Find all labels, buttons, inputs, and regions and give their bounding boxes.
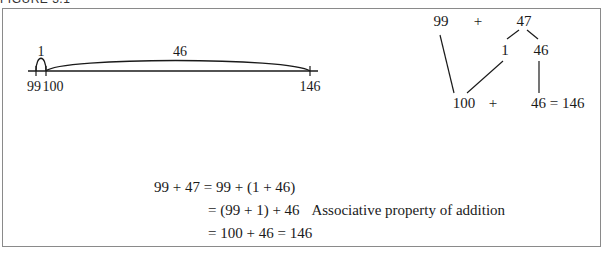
tick-label-100: 100 xyxy=(43,79,64,94)
decomposition-tree: 99 + 47 1 46 100 + 46 = 146 xyxy=(434,13,585,111)
equation-line-3: = 100 + 46 = 146 xyxy=(208,225,312,242)
jump-label-1: 1 xyxy=(38,44,45,59)
tree-split-46: 46 xyxy=(534,42,550,58)
tree-top-47: 47 xyxy=(517,13,533,29)
jump-arc-46 xyxy=(46,61,310,72)
equation-note: Associative property of addition xyxy=(311,202,505,218)
equation-rhs: = (99 + 1) + 46 xyxy=(208,202,300,218)
tick-label-146: 146 xyxy=(300,79,321,94)
equation-lhs: 99 + 47 xyxy=(154,179,200,195)
number-line: 1 46 99 100 146 xyxy=(27,44,321,94)
tree-bottom-plus: + xyxy=(489,95,497,111)
tree-top-plus: + xyxy=(474,13,482,29)
tree-bottom-result: 46 = 146 xyxy=(531,95,585,111)
equation-line-2: = (99 + 1) + 46 Associative property of … xyxy=(208,202,505,219)
equation-line-1: 99 + 47 = 99 + (1 + 46) xyxy=(154,179,295,196)
tree-split-1: 1 xyxy=(501,42,509,58)
tree-bottom-100: 100 xyxy=(453,95,476,111)
jump-label-46: 46 xyxy=(173,44,187,59)
tree-top-99: 99 xyxy=(434,13,449,29)
equation-rhs: = 100 + 46 = 146 xyxy=(208,225,312,241)
jump-arc-1 xyxy=(36,58,46,71)
equation-rhs: = 99 + (1 + 46) xyxy=(204,179,296,195)
tick-label-99: 99 xyxy=(27,79,41,94)
